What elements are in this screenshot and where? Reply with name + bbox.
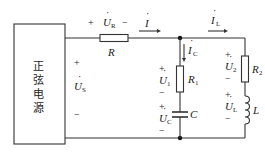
ic-arrow-head (182, 58, 186, 62)
source-label-char-1: 正 (33, 60, 44, 73)
inductor-l (245, 96, 250, 124)
r2-subscript: 2 (259, 69, 263, 77)
il-arrow-head (224, 29, 228, 33)
r-label: R (107, 46, 115, 58)
r2-symbol: R (251, 63, 259, 75)
ur-subscript: R (111, 22, 116, 30)
resistor-r2 (242, 56, 249, 82)
uc-minus: − (159, 125, 165, 136)
source-label-char-4: 源 (33, 101, 44, 115)
uc-subscript: C (167, 118, 172, 126)
source-label-char-2: 弦 (33, 73, 44, 87)
us-subscript: S (82, 86, 86, 94)
ul-minus: − (225, 113, 231, 124)
us-minus: − (74, 109, 80, 120)
il-subscript: L (216, 20, 220, 28)
ur-plus: + (88, 17, 94, 28)
ic-subscript: C (193, 50, 198, 58)
source-label-char-3: 电 (33, 88, 44, 101)
resistor-r1 (177, 66, 184, 92)
circuit-diagram: 正 弦 电 源 + · U R − R · I · I L · I C R 1 … (0, 0, 265, 162)
r1-subscript: 1 (195, 79, 199, 87)
c-symbol: C (190, 108, 198, 120)
r1-symbol: R (187, 73, 195, 85)
u2-minus: − (225, 73, 231, 84)
ur-minus: − (122, 17, 128, 28)
u1-subscript: 1 (167, 80, 171, 88)
us-plus: + (74, 57, 80, 68)
ul-subscript: L (233, 106, 237, 114)
resistor-r (100, 35, 128, 42)
i-arrow-head (157, 29, 161, 33)
u2-subscript: 2 (233, 66, 237, 74)
l-symbol: L (252, 104, 259, 116)
u1-minus: − (159, 87, 165, 98)
